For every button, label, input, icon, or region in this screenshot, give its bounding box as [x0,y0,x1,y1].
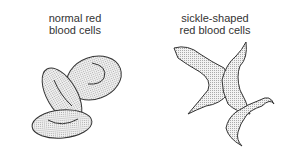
sickle-cell-left [174,47,229,114]
normal-cell-bottom [31,107,93,140]
cells-illustration [0,0,282,148]
sickle-cells [174,42,274,146]
sickle-cell-right [222,42,250,114]
normal-cells [31,49,128,141]
